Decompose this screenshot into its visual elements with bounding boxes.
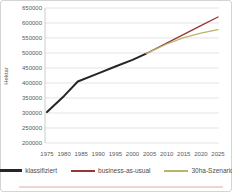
chart-frame: 2000002500003000003500004000004500005000… [0,0,232,192]
legend-label-business-as-usual: business-as-usual [98,167,150,174]
y-tick-label: 650000 [22,5,43,11]
legend-marker-klassifiziert [0,169,22,172]
legend-label-klassifiziert: klassifiziert [25,167,57,174]
legend-item-business-as-usual: business-as-usual [71,167,150,174]
legend-marker-business-as-usual [71,170,95,172]
x-tick-label: 2020 [194,151,208,157]
frame-bottom-accent [19,186,223,188]
y-tick-label: 550000 [22,35,43,41]
x-tick-label: 2000 [126,151,140,157]
x-tick-label: 1975 [40,151,54,157]
x-tick-label: 1985 [75,151,89,157]
x-tick-label: 2005 [143,151,157,157]
x-tick-label: 1990 [92,151,106,157]
x-tick-label: 1995 [109,151,123,157]
y-tick-label: 450000 [22,65,43,71]
x-tick-label: 2025 [211,151,225,157]
y-tick-label: 600000 [22,20,43,26]
legend-label-30ha-szenario: 30ha-Szenario [191,167,232,174]
series-line-30ha-Szenario [146,30,218,54]
x-tick-label: 2015 [177,151,191,157]
x-tick-label: 2010 [160,151,174,157]
y-tick-label: 350000 [22,95,43,101]
line-chart: 2000002500003000003500004000004500005000… [1,1,232,165]
x-tick-label: 1980 [57,151,71,157]
y-tick-label: 300000 [22,110,43,116]
y-tick-label: 400000 [22,80,43,86]
chart-legend: klassifiziert business-as-usual 30ha-Sze… [1,167,231,174]
y-tick-label: 500000 [22,50,43,56]
legend-marker-30ha-szenario [164,170,188,172]
y-tick-label: 250000 [22,125,43,131]
y-axis-title: Hektar [3,67,9,85]
legend-item-klassifiziert: klassifiziert [0,167,57,174]
legend-item-30ha-szenario: 30ha-Szenario [164,167,232,174]
y-tick-label: 200000 [22,140,43,146]
